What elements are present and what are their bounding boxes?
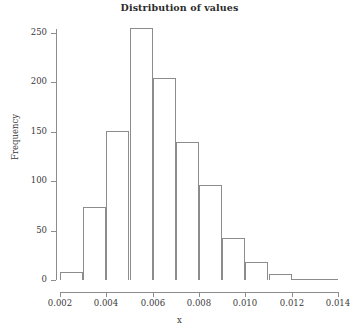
chart-title: Distribution of values xyxy=(0,2,359,13)
histogram-bar xyxy=(130,28,153,280)
x-tick-mark xyxy=(199,292,200,297)
histogram-bar xyxy=(199,185,222,280)
x-tick-mark xyxy=(153,292,154,297)
histogram-bar xyxy=(222,238,245,280)
histogram-bar xyxy=(83,207,106,280)
x-tick-label: 0.012 xyxy=(267,299,317,308)
plot-area xyxy=(60,24,338,280)
x-tick-mark xyxy=(292,292,293,297)
x-axis-title: x xyxy=(0,315,359,325)
x-tick-label: 0.004 xyxy=(81,299,131,308)
x-tick-label: 0.010 xyxy=(220,299,270,308)
y-tick-label: 50 xyxy=(3,226,47,235)
x-tick-mark xyxy=(60,292,61,297)
histogram-bar xyxy=(315,279,338,280)
y-tick-label: 250 xyxy=(3,28,47,37)
y-tick-label: 200 xyxy=(3,77,47,86)
histogram-bar xyxy=(292,279,315,280)
histogram-bar xyxy=(245,262,268,280)
histogram-bar xyxy=(106,131,129,280)
y-tick-mark xyxy=(51,181,56,182)
y-tick-label: 0 xyxy=(3,275,47,284)
histogram-bar xyxy=(153,78,176,280)
histogram-bar xyxy=(176,142,199,280)
y-axis-title: Frequency xyxy=(10,87,20,187)
y-axis-line xyxy=(56,29,57,280)
x-tick-label: 0.006 xyxy=(128,299,178,308)
x-tick-mark xyxy=(106,292,107,297)
x-tick-mark xyxy=(245,292,246,297)
y-tick-mark xyxy=(51,33,56,34)
y-tick-mark xyxy=(51,132,56,133)
y-tick-mark xyxy=(51,231,56,232)
x-tick-label: 0.014 xyxy=(313,299,359,308)
histogram-bar xyxy=(60,272,83,280)
histogram-chart: Distribution of values Frequency 0501001… xyxy=(0,0,359,333)
x-tick-label: 0.008 xyxy=(174,299,224,308)
y-tick-label: 100 xyxy=(3,176,47,185)
y-tick-mark xyxy=(51,280,56,281)
y-tick-mark xyxy=(51,82,56,83)
histogram-bar xyxy=(269,274,292,280)
x-tick-mark xyxy=(338,292,339,297)
y-tick-label: 150 xyxy=(3,127,47,136)
x-tick-label: 0.002 xyxy=(35,299,85,308)
